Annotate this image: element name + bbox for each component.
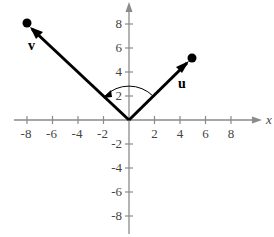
- svg-text:-8: -8: [21, 126, 32, 141]
- svg-text:6: 6: [116, 40, 123, 55]
- vector-u-endpoint: [188, 54, 197, 63]
- vector-v-endpoint: [23, 19, 32, 28]
- svg-text:-4: -4: [72, 126, 83, 141]
- svg-text:8: 8: [116, 16, 123, 31]
- svg-text:8: 8: [228, 126, 235, 141]
- vector-v: [32, 29, 129, 120]
- svg-text:2: 2: [151, 126, 158, 141]
- vector-v-label: v: [28, 38, 35, 53]
- svg-text:-6: -6: [111, 184, 122, 199]
- svg-text:-2: -2: [111, 136, 122, 151]
- svg-text:4: 4: [116, 64, 123, 79]
- svg-text:6: 6: [202, 126, 209, 141]
- vector-u-label: u: [178, 76, 186, 91]
- svg-text:-2: -2: [97, 126, 108, 141]
- x-tick-labels: -8 -6 -4 -2 2 4 6 8: [21, 126, 235, 141]
- vector-u: [129, 63, 187, 120]
- svg-text:-6: -6: [46, 126, 57, 141]
- svg-text:2: 2: [116, 88, 123, 103]
- svg-text:-8: -8: [111, 208, 122, 223]
- x-axis-arrow-icon: [252, 117, 262, 124]
- svg-text:4: 4: [177, 126, 184, 141]
- coordinate-plane: -8 -6 -4 -2 2 4 6 8 x 2 4 6 8 -2 -4 -6 -…: [0, 0, 274, 237]
- svg-text:-4: -4: [111, 160, 122, 175]
- x-axis-label: x: [265, 112, 272, 127]
- y-axis-arrow-icon: [126, 2, 133, 12]
